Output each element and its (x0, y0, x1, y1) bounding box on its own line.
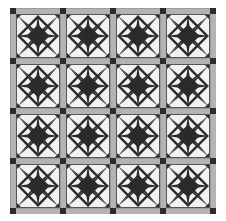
quilt-artwork (0, 0, 226, 221)
quilt-canvas (0, 0, 226, 221)
